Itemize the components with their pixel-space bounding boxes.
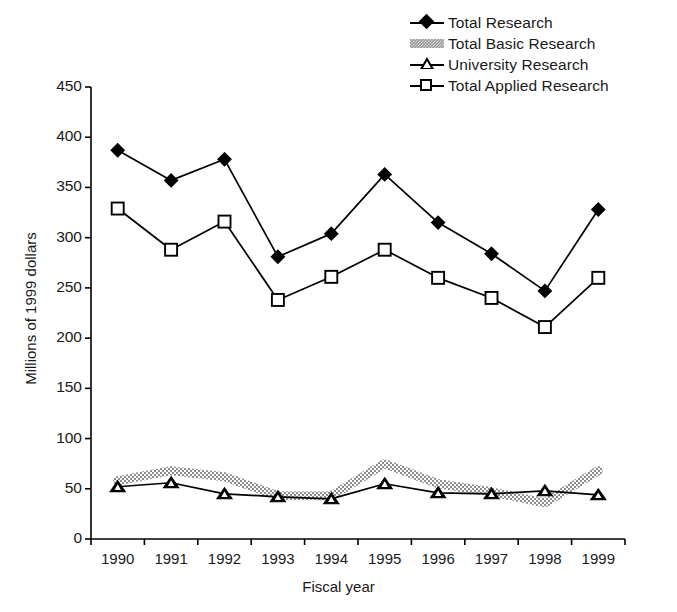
x-tick-label: 1990 [88, 550, 148, 567]
y-axis-title: Millions of 1999 dollars [22, 209, 39, 409]
x-tick-label: 1995 [355, 550, 415, 567]
page-text-fragment [40, 602, 640, 609]
x-tick-label: 1999 [568, 550, 628, 567]
y-tick-label: 250 [36, 278, 82, 296]
plot-area: 050100150200250300350400450 199019911992… [0, 0, 677, 612]
y-tick-label: 100 [36, 429, 82, 447]
y-tick-label: 200 [36, 328, 82, 346]
x-tick-label: 1996 [408, 550, 468, 567]
y-tick-label: 300 [36, 228, 82, 246]
series-lines [118, 150, 599, 499]
x-tick-label: 1993 [248, 550, 308, 567]
x-tick-label: 1992 [195, 550, 255, 567]
y-tick-label: 0 [36, 529, 82, 547]
x-tick-label: 1997 [462, 550, 522, 567]
y-tick-label: 350 [36, 177, 82, 195]
x-axis-ticks: 1990199119921993199419951996199719981999 [0, 546, 677, 570]
y-tick-label: 150 [36, 378, 82, 396]
series-total-basic-research [118, 464, 599, 503]
x-tick-label: 1991 [141, 550, 201, 567]
y-tick-label: 450 [36, 77, 82, 95]
series-markers [110, 144, 606, 504]
y-tick-label: 50 [36, 479, 82, 497]
x-tick-label: 1994 [301, 550, 361, 567]
chart-figure: Total Research Total Basic Research Univ… [0, 0, 677, 612]
y-tick-label: 400 [36, 127, 82, 145]
plot-canvas [0, 0, 677, 612]
x-tick-label: 1998 [515, 550, 575, 567]
x-axis-title: Fiscal year [0, 578, 677, 595]
